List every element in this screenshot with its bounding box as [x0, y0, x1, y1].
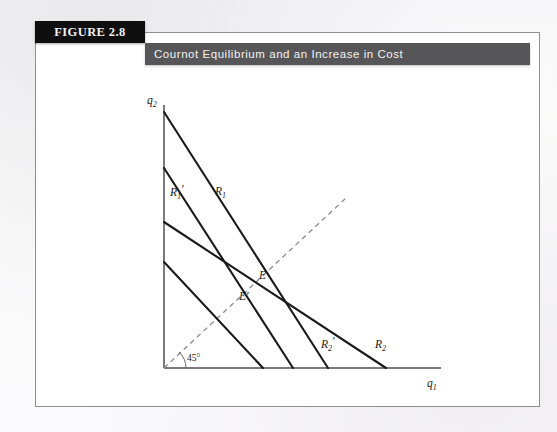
curve-label-r2-prime: R2′ [320, 335, 335, 353]
cournot-diagram-svg: q2 q1 R1′ R1 R2′ R2 E E′ 45° [35, 32, 540, 407]
angle-label-45: 45° [187, 353, 201, 363]
equilibrium-label-e-prime: E′ [238, 290, 249, 302]
reaction-curve-r1 [164, 112, 328, 368]
x-axis-label: q1 [427, 377, 437, 392]
y-axis-label: q2 [147, 94, 157, 109]
curve-label-r2: R2 [374, 338, 386, 353]
curve-label-r1-prime: R1′ [169, 183, 184, 201]
equilibrium-label-e: E [258, 269, 266, 281]
angle-arc [179, 352, 186, 368]
reaction-curve-r2 [164, 222, 386, 368]
reaction-curve-r1-prime [164, 168, 293, 368]
page-background: FIGURE 2.8 Cournot Equilibrium and an In… [0, 0, 557, 432]
figure-plot-area: q2 q1 R1′ R1 R2′ R2 E E′ 45° [35, 32, 540, 407]
